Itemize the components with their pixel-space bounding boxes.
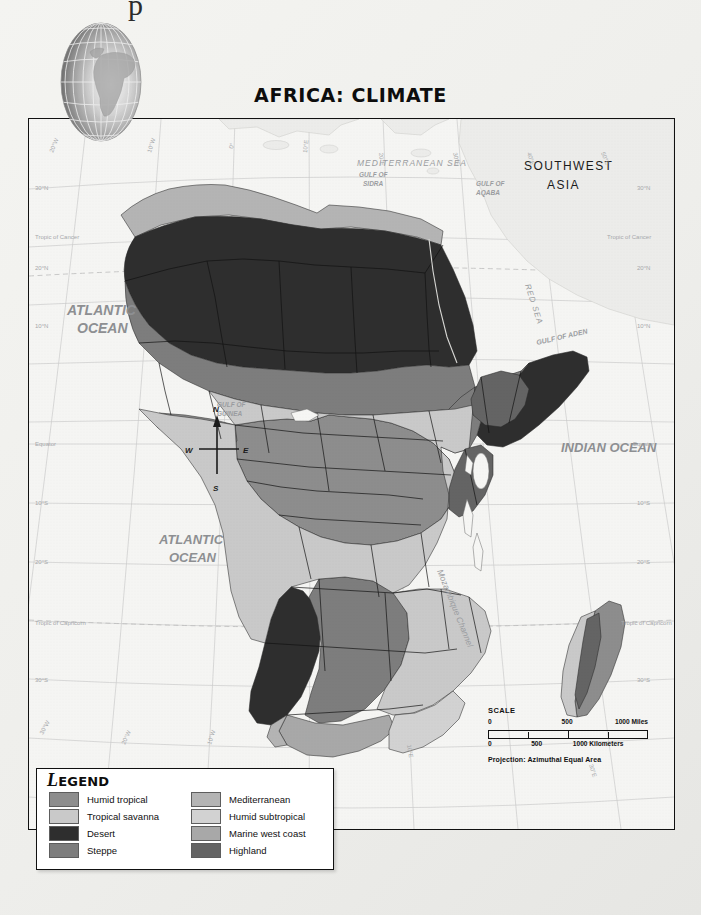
lat-label-20n-left: 20°N xyxy=(35,265,48,271)
scale-km-start: 0 xyxy=(488,740,492,747)
globe-inset-icon xyxy=(52,16,150,148)
scale-miles-mid: 500 xyxy=(562,718,573,725)
projection-note: Projection: Azimuthal Equal Area xyxy=(488,756,648,763)
lat-label-10n-right: 10°N xyxy=(637,323,650,329)
legend-item-highland[interactable]: Highland xyxy=(191,842,333,859)
legend-item-steppe[interactable]: Steppe xyxy=(49,842,191,859)
label-gulf-of-sidra-line1: GULF OF xyxy=(359,171,389,178)
lat-label-30s-right: 30°S xyxy=(637,677,650,683)
legend-swatch-mediterranean xyxy=(191,792,221,807)
label-southwest-asia-line1: SOUTHWEST xyxy=(524,159,613,173)
scale-track xyxy=(488,730,648,739)
legend-swatch-desert xyxy=(49,826,79,841)
legend-swatch-highland xyxy=(191,843,221,858)
legend-label-humid-tropical: Humid tropical xyxy=(87,794,148,805)
label-gulf-of-sidra-line2: SIDRA xyxy=(363,180,384,187)
legend-label-highland: Highland xyxy=(229,845,267,856)
lake-victoria xyxy=(473,453,489,489)
label-gulf-of-guinea-line2: GUINEA xyxy=(217,410,243,417)
label-atlantic-ocean-north-line2: OCEAN xyxy=(77,320,128,336)
legend-item-desert[interactable]: Desert xyxy=(49,825,191,842)
legend-title-capital: L xyxy=(47,770,58,790)
scale-km-end: 1000 Kilometers xyxy=(573,740,624,747)
legend-label-marine-west-coast: Marine west coast xyxy=(229,828,306,839)
lat-label-10n-left: 10°N xyxy=(35,323,48,329)
legend-title-rest: EGEND xyxy=(58,774,109,789)
legend-swatch-steppe xyxy=(49,843,79,858)
label-gulf-of-guinea-line1: GULF OF xyxy=(217,401,247,408)
legend-label-mediterranean: Mediterranean xyxy=(229,794,290,805)
legend-title: LEGEND xyxy=(47,774,333,789)
legend-swatch-marine-west-coast xyxy=(191,826,221,841)
lat-label-cancer-right: Tropic of Cancer xyxy=(607,234,651,240)
label-atlantic-ocean-north-line1: ATLANTIC xyxy=(66,302,137,318)
scale-miles-start: 0 xyxy=(488,718,492,725)
legend-items: Humid tropical Mediterranean Tropical sa… xyxy=(49,791,333,859)
map-page: p xyxy=(0,0,701,915)
scale-km-labels: 0 500 1000 Kilometers xyxy=(488,740,648,751)
legend-item-humid-subtropical[interactable]: Humid subtropical xyxy=(191,808,333,825)
legend-item-humid-tropical[interactable]: Humid tropical xyxy=(49,791,191,808)
lat-label-10s-right: 10°S xyxy=(637,500,650,506)
lat-label-20s-left: 20°S xyxy=(35,559,48,565)
compass-label-north: N xyxy=(213,405,219,414)
label-gulf-of-aqaba-line2: AQABA xyxy=(475,189,500,197)
lat-label-capricorn-right: Tropic of Capricorn xyxy=(621,620,672,626)
scale-km-mid: 500 xyxy=(531,740,542,747)
compass-label-east: E xyxy=(243,446,249,455)
scale-bar: SCALE 0 500 1000 Miles 0 500 1000 Kilome… xyxy=(488,706,648,763)
lat-label-30n-right: 30°N xyxy=(637,185,650,191)
legend-label-steppe: Steppe xyxy=(87,845,117,856)
compass-label-south: S xyxy=(213,484,219,493)
lat-label-cancer-left: Tropic of Cancer xyxy=(35,234,79,240)
lat-label-20n-right: 20°N xyxy=(637,265,650,271)
label-atlantic-ocean-south-line1: ATLANTIC xyxy=(158,532,224,547)
lat-label-30n-left: 30°N xyxy=(35,185,48,191)
lat-label-20s-right: 20°S xyxy=(637,559,650,565)
label-mediterranean-sea: MEDITERRANEAN SEA xyxy=(357,158,467,168)
scale-miles-labels: 0 500 1000 Miles xyxy=(488,718,648,729)
lat-label-capricorn-left: Tropic of Capricorn xyxy=(35,620,86,626)
lat-label-10s-left: 10°S xyxy=(35,500,48,506)
lat-label-30s-left: 30°S xyxy=(35,677,48,683)
lat-label-equator-right: Equator xyxy=(633,441,654,447)
label-atlantic-ocean-south-line2: OCEAN xyxy=(169,550,217,565)
legend-swatch-humid-subtropical xyxy=(191,809,221,824)
legend-item-tropical-savanna[interactable]: Tropical savanna xyxy=(49,808,191,825)
lat-label-equator-left: Equator xyxy=(35,441,56,447)
label-gulf-of-aqaba-line1: GULF OF xyxy=(476,180,506,187)
legend-item-mediterranean[interactable]: Mediterranean xyxy=(191,791,333,808)
legend-swatch-tropical-savanna xyxy=(49,809,79,824)
legend-label-desert: Desert xyxy=(87,828,115,839)
label-southwest-asia-line2: ASIA xyxy=(547,178,580,192)
legend-item-marine-west-coast[interactable]: Marine west coast xyxy=(191,825,333,842)
scale-miles-end: 1000 Miles xyxy=(615,718,648,725)
legend-label-humid-subtropical: Humid subtropical xyxy=(229,811,305,822)
legend-box: LEGEND Humid tropical Mediterranean Trop… xyxy=(36,768,334,870)
scale-title: SCALE xyxy=(488,706,648,715)
legend-label-tropical-savanna: Tropical savanna xyxy=(87,811,159,822)
legend-swatch-humid-tropical xyxy=(49,792,79,807)
